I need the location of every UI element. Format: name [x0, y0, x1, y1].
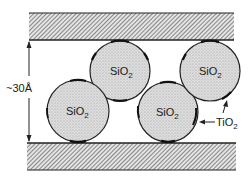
bottom-plate [27, 143, 236, 170]
sio2-particle-4: SiO2 [180, 41, 240, 101]
tio2-callout: TiO2 [199, 100, 238, 131]
tio2-patch [70, 141, 86, 142]
tio2-patch [161, 141, 175, 142]
tio2-patch [160, 82, 176, 83]
sio2-particle-2: SiO2 [47, 80, 109, 142]
tio2-label: TiO2 [216, 116, 238, 131]
tio2-patch [138, 106, 139, 118]
diagram-canvas: ~30Å SiO2 SiO2 SiO2 SiO2 [0, 0, 250, 182]
tio2-patch [47, 108, 48, 118]
gap-label: ~30Å [6, 82, 33, 94]
tio2-patch [70, 80, 86, 81]
top-plate [29, 13, 234, 40]
tio2-patch [113, 100, 127, 101]
